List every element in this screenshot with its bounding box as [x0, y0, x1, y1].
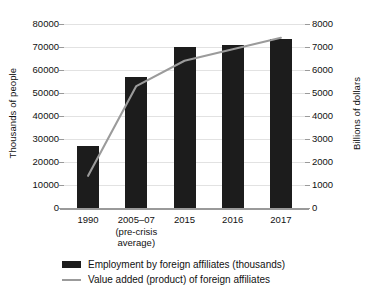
chart-container: Thousands of people Billions of dollars …	[0, 0, 368, 300]
y-tick-label-right: 8000	[312, 18, 352, 29]
x-tick-label-line: 2017	[244, 214, 318, 226]
y-tick-label-left: 70000	[1, 41, 59, 52]
y-tick-label-right: 4000	[312, 110, 352, 121]
y-tick-mark-right	[305, 70, 310, 71]
y-tick-label-right: 1000	[312, 179, 352, 190]
y-tick-label-right: 3000	[312, 133, 352, 144]
y-tick-label-left: 20000	[1, 156, 59, 167]
y-tick-label-right: 6000	[312, 64, 352, 75]
legend-item-employment: Employment by foreign affiliates (thousa…	[0, 257, 368, 272]
legend-label-employment: Employment by foreign affiliates (thousa…	[88, 259, 285, 270]
y-tick-mark-right	[305, 139, 310, 140]
y-tick-label-left: 80000	[1, 18, 59, 29]
line-swatch-icon	[62, 279, 81, 281]
y-tick-mark-right	[305, 24, 310, 25]
y-tick-mark-right	[305, 47, 310, 48]
x-tick-label-line: (pre-crisis	[99, 226, 173, 238]
line-series	[64, 24, 305, 208]
x-axis-baseline	[60, 208, 309, 210]
y-tick-mark-right	[305, 162, 310, 163]
legend-item-value-added: Value added (product) of foreign affilia…	[0, 272, 368, 287]
x-tick-label-line: average)	[99, 237, 173, 249]
chart-legend: Employment by foreign affiliates (thousa…	[0, 257, 368, 287]
y-tick-mark-right	[305, 116, 310, 117]
y-tick-label-left: 30000	[1, 133, 59, 144]
y-tick-label-right: 7000	[312, 41, 352, 52]
bar-swatch-icon	[62, 261, 81, 268]
y-tick-label-left: 50000	[1, 87, 59, 98]
y-axis-right-title: Billions of dollars	[351, 69, 362, 159]
y-tick-mark-right	[305, 185, 310, 186]
y-tick-label-left: 0	[1, 202, 59, 213]
legend-label-value-added: Value added (product) of foreign affilia…	[88, 274, 270, 285]
y-tick-label-left: 10000	[1, 179, 59, 190]
y-tick-label-right: 5000	[312, 87, 352, 98]
y-tick-label-right: 2000	[312, 156, 352, 167]
y-tick-mark-right	[305, 93, 310, 94]
y-tick-label-right: 0	[312, 202, 352, 213]
y-tick-label-left: 40000	[1, 110, 59, 121]
x-tick-label: 2017	[244, 214, 318, 226]
y-tick-label-left: 60000	[1, 64, 59, 75]
